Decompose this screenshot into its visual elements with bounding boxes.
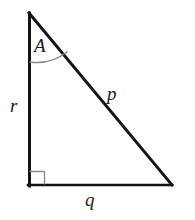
side-label-p: p [107,84,117,103]
side-label-r: r [10,96,17,115]
angle-label-a: A [34,36,46,55]
side-label-q: q [85,190,95,209]
triangle-side-p-line [29,13,172,185]
right-angle-marker [30,172,45,185]
right-triangle-figure: A p q r [0,0,195,220]
triangle-drawing [0,0,195,220]
